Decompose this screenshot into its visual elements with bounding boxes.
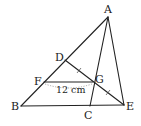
- segment-be: [21, 105, 124, 106]
- label-e: E: [126, 100, 134, 113]
- segment-ae: [108, 17, 124, 105]
- segment-ac: [90, 17, 108, 106]
- label-c: C: [84, 109, 92, 122]
- label-d: D: [55, 51, 64, 64]
- label-b: B: [11, 100, 19, 113]
- label-a: A: [103, 3, 113, 16]
- measurement-label: 12 cm: [56, 84, 85, 95]
- label-f: F: [34, 75, 42, 88]
- triangle-diagram: 12 cm A B C D E F G: [0, 0, 141, 126]
- label-g: G: [95, 73, 104, 86]
